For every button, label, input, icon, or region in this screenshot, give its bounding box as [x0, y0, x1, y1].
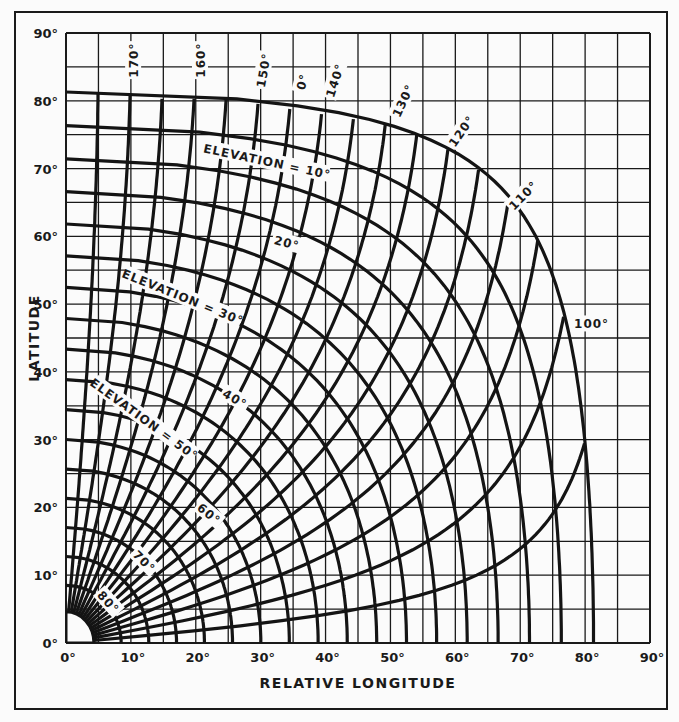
azimuth-label: 160° — [192, 41, 208, 79]
x-tick-label: 20° — [185, 650, 210, 665]
y-tick-label: 90° — [33, 26, 58, 41]
azimuth-label: 150° — [252, 50, 274, 90]
x-tick-label: 60° — [445, 650, 470, 665]
azimuth-label: 140° — [321, 60, 348, 101]
azimuth-label-text: 150° — [254, 52, 274, 89]
y-tick-label: 70° — [33, 162, 58, 177]
satellite-look-angle-chart: 0°10°20°30°40°50°60°70°80°90°0°10°20°30°… — [0, 0, 679, 722]
azimuth-label-text: 100° — [574, 317, 609, 331]
grid-lines — [66, 33, 650, 643]
x-axis-title: RELATIVE LONGITUDE — [260, 675, 457, 691]
azimuth-label: 0° — [291, 69, 312, 94]
azimuth-label: 120° — [444, 111, 479, 151]
y-tick-label: 20° — [33, 500, 58, 515]
x-tick-label: 50° — [380, 650, 405, 665]
azimuth-label: 100° — [573, 315, 611, 331]
y-tick-label: 30° — [33, 433, 58, 448]
elevation-label: ELEVATION = 50° — [87, 374, 201, 463]
x-tick-label: 10° — [121, 650, 146, 665]
x-tick-label: 30° — [250, 650, 275, 665]
azimuth-label-text: 120° — [446, 113, 478, 150]
y-tick-label: 0° — [42, 636, 58, 651]
x-tick-label: 0° — [60, 650, 76, 665]
azimuth-label-text: 170° — [127, 43, 141, 78]
elevation-label: 20° — [270, 231, 303, 254]
azimuth-label-text: 160° — [194, 43, 208, 78]
y-tick-label: 10° — [33, 568, 58, 583]
azimuth-label: 170° — [125, 41, 141, 79]
y-tick-label: 80° — [33, 94, 58, 109]
x-tick-label: 80° — [575, 650, 600, 665]
curve-labels: ELEVATION = 10°20°ELEVATION = 30°40°ELEV… — [87, 41, 610, 618]
x-tick-label: 40° — [315, 650, 340, 665]
x-tick-label: 90° — [640, 650, 665, 665]
y-axis-title: LATITUDE — [26, 294, 42, 382]
elevation-label-text: ELEVATION = 50° — [87, 376, 200, 464]
x-tick-label: 70° — [510, 650, 535, 665]
y-tick-label: 60° — [33, 229, 58, 244]
azimuth-label-text: 0° — [294, 72, 312, 91]
